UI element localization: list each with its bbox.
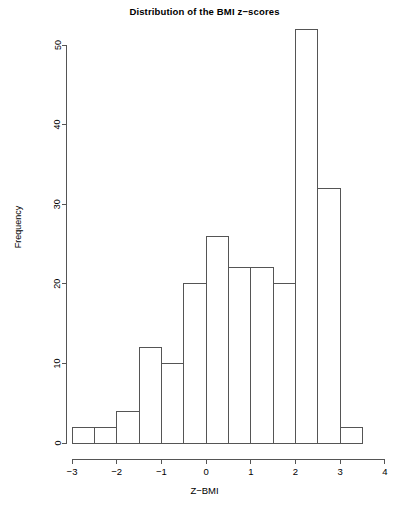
histogram-bar — [251, 268, 273, 443]
histogram-bar — [318, 188, 340, 443]
histogram-bar — [206, 236, 228, 443]
x-tick-label: 4 — [382, 466, 387, 477]
histogram-bar — [161, 363, 183, 443]
histogram-bar — [139, 347, 161, 443]
y-tick-label: 40 — [53, 120, 63, 130]
y-tick-label: 10 — [53, 358, 63, 368]
y-axis: 01020304050 — [53, 40, 67, 446]
histogram-bar — [273, 284, 295, 443]
x-tick-label: −2 — [111, 466, 122, 477]
y-tick-label: 30 — [53, 199, 63, 209]
histogram-bar — [72, 427, 94, 443]
x-tick-label: 2 — [293, 466, 298, 477]
x-axis: −3−2−101234 — [67, 459, 388, 477]
footer-caption — [0, 503, 409, 512]
histogram-bar — [117, 411, 139, 443]
y-tick-label: 0 — [53, 440, 63, 445]
x-tick-label: −1 — [156, 466, 167, 477]
histogram-plot: Distribution of the BMI z−scores Frequen… — [0, 0, 409, 512]
histogram-bars — [72, 29, 363, 443]
x-tick-label: 1 — [248, 466, 253, 477]
y-tick-label: 20 — [53, 279, 63, 289]
x-axis-label: Z−BMI — [0, 485, 409, 496]
x-tick-label: 3 — [338, 466, 343, 477]
histogram-bar — [296, 29, 318, 443]
y-tick-label: 50 — [53, 40, 63, 50]
x-tick-label: 0 — [203, 466, 208, 477]
histogram-bar — [94, 427, 116, 443]
plot-canvas: 01020304050 −3−2−101234 — [0, 0, 409, 512]
x-tick-label: −3 — [67, 466, 78, 477]
histogram-bar — [184, 284, 206, 443]
histogram-bar — [340, 427, 362, 443]
histogram-bar — [228, 268, 250, 443]
